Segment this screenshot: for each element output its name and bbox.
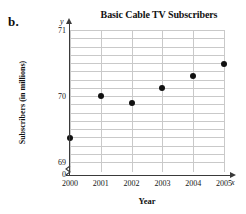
part-label: b. (8, 14, 19, 30)
gridline-horizontal (70, 96, 224, 97)
gridline-vertical (224, 30, 225, 172)
data-point (190, 73, 196, 79)
chart-title: Basic Cable TV Subscribers (76, 9, 242, 20)
gridline-horizontal (70, 38, 224, 39)
y-tick-label: 69 (44, 158, 66, 167)
y-tick-label: 70 (44, 92, 66, 101)
gridline-horizontal (70, 121, 224, 122)
gridline-horizontal (70, 113, 224, 114)
y-axis-title: Subscribers (in millions) (18, 38, 27, 168)
y-axis-line (69, 24, 70, 176)
gridline-horizontal (70, 88, 224, 89)
x-tick-label: 2004 (176, 179, 210, 188)
gridline-vertical (193, 30, 194, 172)
gridline-horizontal (70, 146, 224, 147)
gridline-horizontal (70, 30, 224, 31)
gridline-horizontal (70, 154, 224, 155)
y-tick-label: 0 (44, 170, 66, 179)
x-tick-label: 2003 (145, 179, 179, 188)
gridline-horizontal (70, 63, 224, 64)
gridline-horizontal (70, 47, 224, 48)
gridline-vertical (101, 30, 102, 172)
x-tick-label: 2000 (53, 179, 87, 188)
chart-figure: b. Basic Cable TV Subscribers 7170690 20… (0, 0, 246, 214)
y-axis-variable-label: y (60, 17, 64, 26)
gridline-horizontal (70, 104, 224, 105)
gridline-horizontal (70, 55, 224, 56)
x-axis-variable-label: x (231, 178, 235, 187)
gridline-horizontal (70, 137, 224, 138)
data-point (221, 61, 227, 67)
data-point (98, 93, 104, 99)
x-tick-label: 2001 (84, 179, 118, 188)
x-tick-label: 2002 (115, 179, 149, 188)
y-axis-arrow-icon (66, 18, 72, 24)
plot-area (70, 30, 224, 172)
gridline-horizontal (70, 71, 224, 72)
x-axis-line (66, 175, 232, 176)
x-axis-title: Year (70, 196, 224, 206)
gridline-horizontal (70, 80, 224, 81)
y-tick-label: 71 (44, 26, 66, 35)
data-point (129, 100, 135, 106)
data-point (159, 85, 165, 91)
gridline-horizontal (70, 129, 224, 130)
x-tick-label: 2005 (207, 179, 241, 188)
gridline-horizontal (70, 162, 224, 163)
gridline-vertical (162, 30, 163, 172)
